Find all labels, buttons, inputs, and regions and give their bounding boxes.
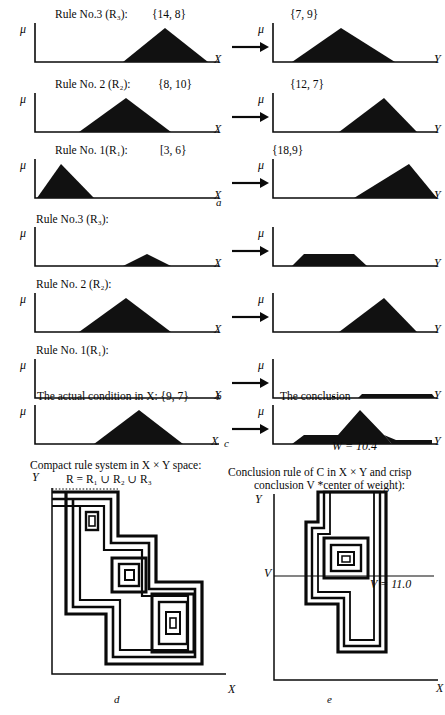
x-axis-label-b2: X [214, 322, 221, 337]
plot-a1-consequent [272, 22, 442, 70]
plot-d-rule-space [40, 486, 240, 706]
y-axis-label-c: Y [434, 434, 441, 449]
plot-a2-consequent [272, 92, 442, 140]
plot-a3-consequent [272, 158, 442, 206]
x-axis-label-a1: X [214, 52, 221, 67]
rule3-consequent-set-a: {7, 9} [290, 8, 318, 20]
plot-b2-consequent [272, 292, 442, 340]
arrow-b1 [232, 244, 270, 258]
rule1-label-b: Rule No. 1(R₁): [36, 344, 109, 356]
arrow-c [232, 422, 270, 436]
section-a-caption: a [216, 196, 222, 208]
arrow-b3 [232, 376, 270, 390]
plot-c-input [34, 404, 234, 452]
y-axis-label-a2: Y [434, 122, 441, 137]
section-e-title-line1: Conclusion rule of C in X × Y and crisp [228, 466, 412, 479]
rule2-antecedent-label-a: Rule No. 2 (R₂): [55, 78, 131, 90]
mu-label-b2-left: μ [20, 292, 26, 307]
rule1-consequent-set-a: {18,9} [272, 144, 303, 156]
y-axis-label-b3: Y [434, 388, 441, 403]
w-value-label: W = 10.4 [332, 440, 377, 453]
section-d-caption: d [114, 693, 120, 705]
section-c-caption: c [224, 437, 229, 449]
rule3-antecedent-set-a: {14, 8} [152, 8, 186, 20]
rule1-antecedent-set-a: [3, 6} [160, 144, 187, 156]
figure-page: Rule No.3 (R₃): {14, 8} μ X {7, 9} μ Y R… [0, 0, 445, 715]
plot-b1-consequent [272, 226, 442, 274]
arrow-a2 [232, 110, 270, 124]
y-axis-label-d: Y [32, 470, 39, 485]
y-axis-label-e: Y [255, 492, 262, 507]
mu-label-c-left: μ [20, 404, 26, 419]
arrow-b2 [232, 310, 270, 324]
y-axis-label-a3: Y [434, 188, 441, 203]
plot-a3-antecedent [34, 158, 234, 206]
section-d-title-line2: R = R₁ ∪ R₂ ∪ R₃ [66, 473, 152, 486]
plot-b2-antecedent [34, 292, 234, 340]
section-e-caption: e [327, 693, 332, 705]
x-axis-label-e: X [436, 681, 443, 696]
section-d-title-line1: Compact rule system in X × Y space: [30, 459, 201, 472]
section-b-caption: b [216, 390, 222, 402]
x-axis-label-b1: X [214, 256, 221, 271]
mu-label-b3-left: μ [20, 358, 26, 373]
section-e-title-line2: conclusion V *center of weight): [254, 479, 405, 492]
rule1-antecedent-label-a: Rule No. 1(R₁): [55, 144, 128, 156]
mu-label-b1-left: μ [20, 226, 26, 241]
y-axis-label-b1: Y [434, 256, 441, 271]
rule3-label-b: Rule No.3 (R₃): [36, 213, 109, 225]
plot-a1-antecedent [34, 22, 234, 70]
v-axis-label-e: V [264, 566, 271, 581]
rule2-consequent-set-a: {12, 7} [290, 78, 324, 90]
mu-label-a3-right: μ [258, 158, 264, 173]
x-axis-label-c: X [211, 434, 218, 449]
mu-label-a1-right: μ [258, 22, 264, 37]
mu-label-c-right: μ [258, 404, 264, 419]
plot-a2-antecedent [34, 92, 234, 140]
plot-b1-antecedent [34, 226, 234, 274]
mu-label-b3-right: μ [258, 358, 264, 373]
mu-label-b2-right: μ [258, 292, 264, 307]
mu-label-b1-right: μ [258, 226, 264, 241]
mu-label-a1-left: μ [20, 22, 26, 37]
conclusion-label: The conclusion [280, 390, 351, 402]
actual-condition-label: The actual condition in X: {9, 7} [37, 390, 189, 402]
rule2-label-b: Rule No. 2 (R₂): [36, 278, 112, 290]
y-axis-label-b2: Y [434, 322, 441, 337]
y-axis-label-a1: Y [434, 52, 441, 67]
plot-e-conclusion-space [262, 492, 445, 712]
mu-label-a2-left: μ [20, 92, 26, 107]
arrow-a1 [232, 40, 270, 54]
mu-label-a2-right: μ [258, 92, 264, 107]
v-value-label: V = 11.0 [370, 578, 411, 591]
arrow-a3 [232, 176, 270, 190]
rule2-antecedent-set-a: {8, 10} [158, 78, 192, 90]
x-axis-label-a2: X [214, 122, 221, 137]
x-axis-label-d: X [228, 682, 235, 697]
mu-label-a3-left: μ [20, 158, 26, 173]
rule3-antecedent-label-a: Rule No.3 (R₃): [55, 8, 128, 20]
